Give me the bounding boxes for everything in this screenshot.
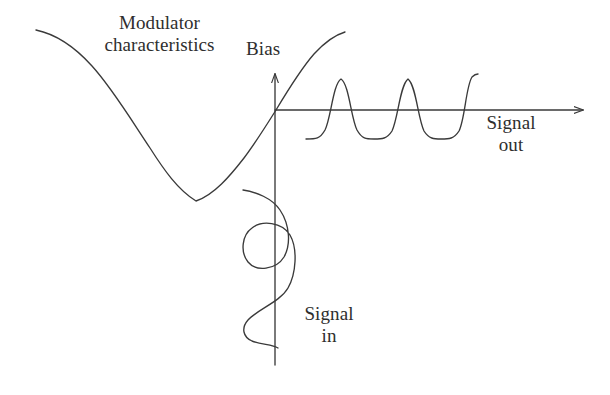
signal-in-line-1: Signal — [304, 303, 353, 324]
title-line-1: Modulator — [119, 12, 200, 33]
signal-out-line-2: out — [499, 134, 524, 155]
modulator-diagram: Modulatorcharacteristics Bias Signalout … — [0, 0, 610, 395]
signal-out-waveform — [306, 74, 478, 139]
bias-axis-label: Bias — [246, 38, 280, 60]
signal-in-line-2: in — [322, 325, 337, 346]
signal-in-label: Signalin — [298, 303, 360, 347]
modulator-characteristics-label: Modulatorcharacteristics — [72, 12, 247, 56]
signal-in-waveform — [243, 190, 295, 348]
signal-out-line-1: Signal — [486, 112, 535, 133]
title-line-2: characteristics — [104, 34, 214, 55]
signal-out-label: Signalout — [476, 112, 546, 156]
